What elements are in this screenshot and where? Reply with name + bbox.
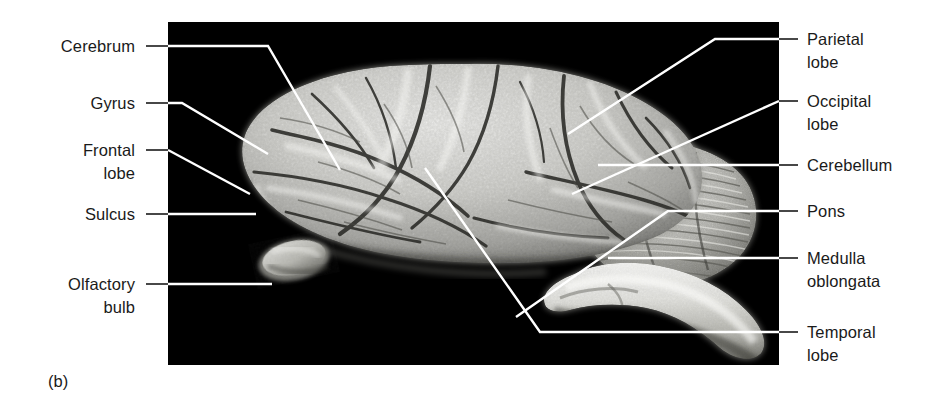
label-medulla-oblongata: Medulla oblongata	[807, 247, 880, 293]
label-frontal-lobe: Frontal lobe	[83, 139, 135, 185]
label-cerebellum: Cerebellum	[807, 154, 892, 177]
brain-photograph-plate	[168, 22, 779, 365]
label-occipital-lobe: Occipital lobe	[807, 90, 871, 136]
brain-anatomy-figure: Cerebrum Gyrus Frontal lobe Sulcus Olfac…	[0, 0, 940, 412]
brain-specimen-image	[168, 22, 779, 365]
label-cerebrum: Cerebrum	[61, 35, 135, 58]
figure-part-caption: (b)	[48, 372, 68, 391]
label-gyrus: Gyrus	[90, 92, 135, 115]
label-sulcus: Sulcus	[85, 203, 135, 226]
label-olfactory-bulb: Olfactory bulb	[68, 273, 135, 319]
label-parietal-lobe: Parietal lobe	[807, 28, 864, 74]
label-pons: Pons	[807, 200, 845, 223]
label-temporal-lobe: Temporal lobe	[807, 321, 876, 367]
